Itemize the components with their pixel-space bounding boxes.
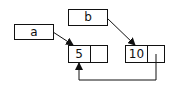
node-5-value: 5	[75, 47, 83, 61]
pointer-diagram: a b 5 10	[0, 0, 177, 87]
node-10: 10	[126, 46, 165, 63]
arrow-b-to-node-10	[107, 18, 135, 45]
arrow-a-to-node-5	[53, 32, 73, 45]
node-10-value: 10	[129, 47, 144, 61]
variable-a-label: a	[30, 25, 37, 39]
variable-a-box: a	[15, 25, 54, 40]
variable-b-box: b	[69, 10, 108, 26]
node-5: 5	[69, 46, 108, 63]
variable-b-label: b	[84, 10, 92, 24]
